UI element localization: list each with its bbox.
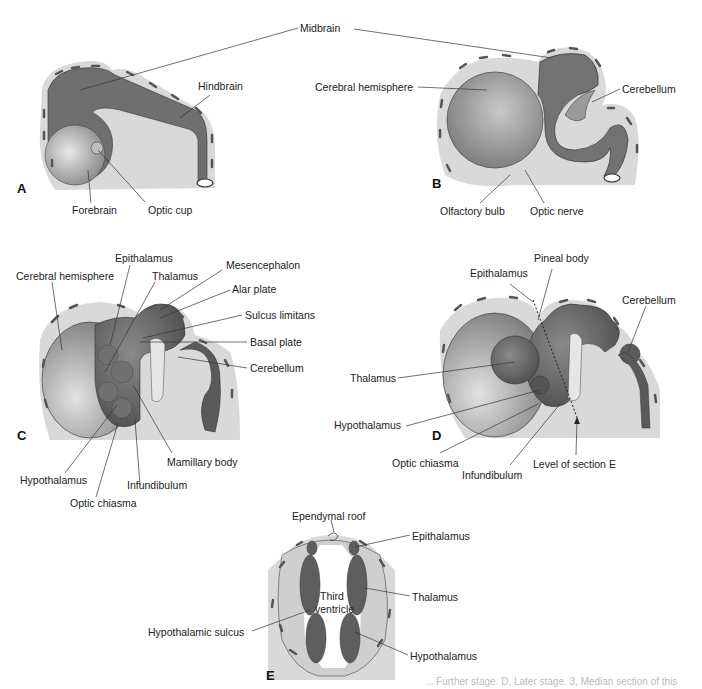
- label-c-cerebral-hemisphere: Cerebral hemisphere: [16, 270, 114, 282]
- label-e-ventricle: ventricle: [315, 603, 354, 615]
- panel-a-letter: A: [17, 181, 26, 196]
- label-d-pineal-body: Pineal body: [534, 252, 589, 264]
- label-d-infundibulum: Infundibulum: [462, 469, 522, 481]
- label-e-third: Third: [320, 590, 344, 602]
- panel-d-letter: D: [432, 428, 441, 443]
- label-a-forebrain: Forebrain: [72, 204, 117, 216]
- panel-b-illustration: [354, 29, 639, 203]
- label-c-hypothalamus: Hypothalamus: [20, 474, 87, 486]
- label-d-epithalamus: Epithalamus: [470, 267, 528, 279]
- label-a-hindbrain: Hindbrain: [198, 80, 243, 92]
- label-e-epithalamus: Epithalamus: [412, 530, 470, 542]
- label-b-cerebral-hemisphere: Cerebral hemisphere: [315, 81, 413, 93]
- diagram-canvas: [0, 0, 702, 689]
- label-d-level-of-section-e: Level of section E: [533, 458, 616, 470]
- panel-c-letter: C: [17, 428, 26, 443]
- label-b-optic-nerve: Optic nerve: [530, 205, 584, 217]
- label-c-mesencephalon: Mesencephalon: [226, 259, 300, 271]
- label-midbrain: Midbrain: [300, 22, 340, 34]
- label-e-hypothalamic-sulcus: Hypothalamic sulcus: [148, 626, 244, 638]
- label-c-infundibulum: Infundibulum: [127, 479, 187, 491]
- label-e-thalamus: Thalamus: [412, 591, 458, 603]
- panel-b-letter: B: [432, 176, 441, 191]
- figure-caption-fragment: ... Further stage. D, Later stage. 3, Me…: [425, 676, 677, 687]
- label-d-hypothalamus: Hypothalamus: [334, 419, 401, 431]
- panel-a-illustration: [40, 28, 298, 203]
- label-e-ependymal-roof: Ependymal roof: [292, 510, 366, 522]
- label-c-optic-chiasma: Optic chiasma: [70, 497, 137, 509]
- label-c-alar-plate: Alar plate: [232, 283, 276, 295]
- label-c-epithalamus: Epithalamus: [115, 252, 173, 264]
- label-d-cerebellum: Cerebellum: [622, 294, 676, 306]
- label-a-optic-cup: Optic cup: [148, 204, 192, 216]
- label-c-basal-plate: Basal plate: [250, 336, 302, 348]
- label-c-mamillary-body: Mamillary body: [167, 456, 238, 468]
- label-d-optic-chiasma: Optic chiasma: [392, 457, 459, 469]
- label-b-cerebellum: Cerebellum: [622, 83, 676, 95]
- label-c-thalamus: Thalamus: [152, 270, 198, 282]
- label-c-sulcus-limitans: Sulcus limitans: [245, 309, 315, 321]
- label-d-thalamus: Thalamus: [350, 372, 396, 384]
- label-b-olfactory-bulb: Olfactory bulb: [440, 205, 505, 217]
- label-e-hypothalamus: Hypothalamus: [410, 650, 477, 662]
- label-c-cerebellum: Cerebellum: [250, 362, 304, 374]
- panel-e-letter: E: [266, 668, 275, 683]
